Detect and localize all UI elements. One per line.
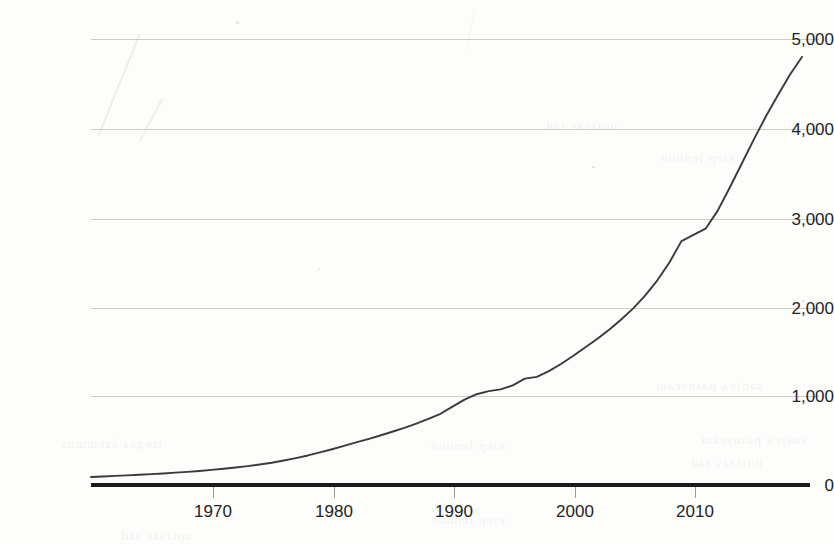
x-axis-label-2000: 2000 [535,503,615,520]
data-series-line [0,0,834,545]
x-axis-label-1990: 1990 [414,503,494,520]
x-axis-tick-2000 [575,487,576,498]
x-axis-line [91,483,810,487]
x-axis-tick-2010 [695,487,696,498]
x-axis-label-1970: 1970 [173,503,253,520]
x-axis-tick-1990 [454,487,455,498]
chart-figure: sənjɐʌ pəɹnsɐəɯ uoıʇɔəs ɹəd ɐʇɐp lɐnuuɐ … [0,0,834,545]
x-axis-tick-1980 [334,487,335,498]
x-axis-tick-1970 [213,487,214,498]
x-axis-label-2010: 2010 [655,503,735,520]
x-axis-label-1980: 1980 [294,503,374,520]
